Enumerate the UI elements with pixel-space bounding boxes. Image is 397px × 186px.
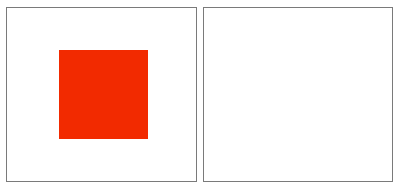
left-panel xyxy=(6,7,197,182)
right-panel-empty xyxy=(203,7,393,182)
stage xyxy=(0,0,397,186)
red-square xyxy=(59,50,148,139)
